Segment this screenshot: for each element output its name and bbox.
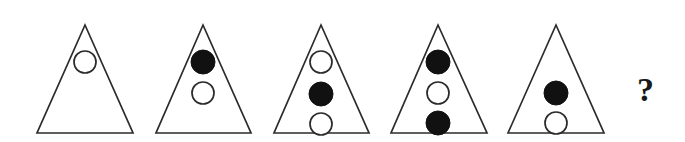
triangle-5-group — [508, 25, 604, 134]
triangle-1-group — [37, 25, 133, 133]
circle-5-2-hollow — [545, 112, 567, 134]
triangle-2-group — [156, 25, 251, 133]
circle-3-1-hollow — [310, 51, 332, 73]
circle-3-2-filled — [309, 82, 333, 106]
triangle-2-outline — [156, 25, 251, 133]
circle-2-1-filled — [191, 50, 215, 74]
circle-3-3-hollow — [310, 113, 332, 135]
triangle-1-outline — [37, 25, 133, 133]
triangle-3-group — [274, 25, 369, 135]
triangle-4-group — [391, 25, 487, 135]
circle-4-3-filled — [426, 111, 450, 135]
question-mark-answer-slot: ? — [637, 73, 654, 107]
triangle-sequence-figure — [0, 0, 685, 142]
circle-4-1-filled — [426, 50, 450, 74]
circle-1-1-hollow — [74, 51, 96, 73]
puzzle-canvas: ? — [0, 0, 685, 142]
circle-5-1-filled — [544, 81, 568, 105]
circle-4-2-hollow — [427, 82, 449, 104]
circle-2-2-hollow — [192, 82, 214, 104]
